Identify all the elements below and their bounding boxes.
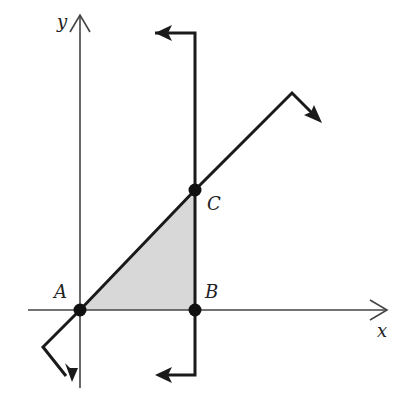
point-b-label: B	[204, 281, 218, 302]
point-b	[189, 304, 202, 317]
point-c	[189, 184, 202, 197]
y-axis	[70, 15, 90, 388]
point-a	[74, 304, 87, 317]
diagram-figure: A B C x y	[0, 0, 413, 408]
x-axis-label: x	[377, 320, 387, 341]
y-axis-label: y	[56, 11, 68, 32]
point-c-label: C	[207, 193, 221, 214]
point-a-label: A	[52, 281, 67, 302]
arrow-head-icon	[65, 363, 78, 382]
